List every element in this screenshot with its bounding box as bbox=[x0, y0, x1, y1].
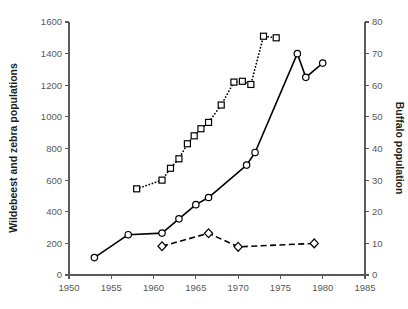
y-axis-right-ticks: 01020304050607080 bbox=[365, 16, 383, 280]
data-point-square bbox=[184, 141, 190, 147]
data-point-diamond bbox=[234, 242, 242, 251]
y-axis-left-tick-label: 1400 bbox=[41, 48, 62, 59]
data-point-square bbox=[231, 79, 237, 85]
x-axis-tick-label: 1970 bbox=[228, 282, 249, 293]
y-axis-right-tick-label: 0 bbox=[372, 269, 377, 280]
data-point-diamond bbox=[310, 239, 318, 248]
y-axis-left-tick-label: 800 bbox=[46, 143, 62, 154]
series-zebra bbox=[134, 33, 280, 192]
chart-figure: 02004006008001000120014001600 0102030405… bbox=[0, 0, 408, 309]
data-point-square bbox=[239, 78, 245, 84]
y-axis-right-tick-label: 30 bbox=[372, 175, 383, 186]
y-axis-left-tick-label: 1600 bbox=[41, 16, 62, 27]
y-axis-right-tick-label: 50 bbox=[372, 111, 383, 122]
data-point-circle bbox=[294, 50, 300, 56]
y-axis-right-tick-label: 10 bbox=[372, 238, 383, 249]
x-axis-tick-label: 1980 bbox=[312, 282, 333, 293]
data-point-circle bbox=[252, 149, 258, 155]
data-point-square bbox=[159, 177, 165, 183]
series-buffalo bbox=[158, 229, 318, 251]
y-axis-right-tick-label: 70 bbox=[372, 48, 383, 59]
y-axis-right-tick-label: 60 bbox=[372, 80, 383, 91]
y-axis-left-tick-label: 600 bbox=[46, 175, 62, 186]
data-point-square bbox=[176, 156, 182, 162]
data-series-layer bbox=[91, 33, 326, 261]
chart-svg: 02004006008001000120014001600 0102030405… bbox=[0, 0, 408, 309]
y-axis-left-ticks: 02004006008001000120014001600 bbox=[41, 16, 69, 280]
data-point-circle bbox=[243, 162, 249, 168]
y-axis-left-tick-label: 1200 bbox=[41, 80, 62, 91]
x-axis-tick-label: 1985 bbox=[354, 282, 375, 293]
series-line-wildebeest bbox=[94, 54, 322, 258]
y-axis-left-tick-label: 400 bbox=[46, 206, 62, 217]
data-point-square bbox=[134, 186, 140, 192]
data-point-circle bbox=[176, 216, 182, 222]
y-axis-left-tick-label: 0 bbox=[57, 269, 62, 280]
x-axis-tick-label: 1965 bbox=[185, 282, 206, 293]
data-point-square bbox=[261, 33, 267, 39]
data-point-circle bbox=[159, 230, 165, 236]
data-point-square bbox=[198, 126, 204, 132]
x-axis-tick-label: 1960 bbox=[143, 282, 164, 293]
y-axis-right-tick-label: 20 bbox=[372, 206, 383, 217]
x-axis-ticks: 19501955196019651970197519801985 bbox=[58, 275, 375, 293]
data-point-circle bbox=[320, 60, 326, 66]
y-axis-left-tick-label: 1000 bbox=[41, 111, 62, 122]
data-point-circle bbox=[303, 74, 309, 80]
data-point-circle bbox=[125, 231, 131, 237]
data-point-diamond bbox=[158, 242, 166, 251]
x-axis-tick-label: 1955 bbox=[101, 282, 122, 293]
data-point-circle bbox=[193, 201, 199, 207]
x-axis-tick-label: 1950 bbox=[58, 282, 79, 293]
y-axis-right-tick-label: 40 bbox=[372, 143, 383, 154]
series-line-zebra bbox=[137, 36, 277, 189]
data-point-square bbox=[206, 119, 212, 125]
data-point-diamond bbox=[204, 229, 212, 238]
data-point-square bbox=[167, 165, 173, 171]
y-axis-right-title: Buffalo population bbox=[394, 102, 406, 195]
data-point-circle bbox=[91, 254, 97, 260]
y-axis-left-title: Wildebeest and zebra populations bbox=[7, 63, 19, 233]
y-axis-right-tick-label: 80 bbox=[372, 16, 383, 27]
data-point-square bbox=[273, 35, 279, 41]
x-axis-tick-label: 1975 bbox=[270, 282, 291, 293]
data-point-circle bbox=[205, 194, 211, 200]
data-point-square bbox=[191, 133, 197, 139]
data-point-square bbox=[218, 102, 224, 108]
data-point-square bbox=[248, 81, 254, 87]
y-axis-left-tick-label: 200 bbox=[46, 238, 62, 249]
